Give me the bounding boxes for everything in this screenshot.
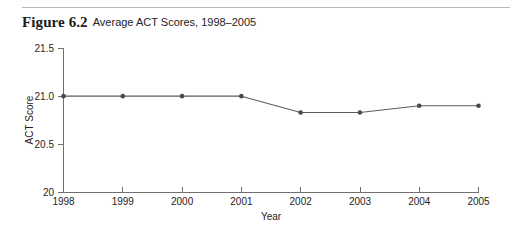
x-tick-label: 1998 [52, 196, 75, 207]
data-point [239, 94, 244, 99]
x-tick-label: 2005 [467, 196, 490, 207]
data-point [180, 94, 185, 99]
line-chart-svg: 21.5 21.0 20.5 20 1998 1999 2000 2001 20… [0, 0, 519, 232]
x-tick-label: 2002 [290, 196, 313, 207]
y-axis-ticks [58, 49, 64, 193]
figure-container: Figure 6.2Average ACT Scores, 1998–2005 [0, 0, 519, 232]
x-axis-tick-labels: 1998 1999 2000 2001 2002 2003 2004 2005 [52, 196, 490, 207]
y-tick-label: 20.5 [35, 139, 55, 150]
data-line [64, 96, 479, 112]
x-axis-title: Year [261, 211, 282, 222]
chart-plot-area: 21.5 21.0 20.5 20 1998 1999 2000 2001 20… [0, 0, 519, 232]
y-axis-title: ACT Score [24, 95, 35, 144]
x-axis-ticks [64, 187, 479, 193]
x-tick-label: 1999 [112, 196, 135, 207]
data-point [476, 104, 481, 109]
data-point [120, 94, 125, 99]
data-point [61, 94, 66, 99]
y-axis-tick-labels: 21.5 21.0 20.5 20 [35, 43, 55, 198]
data-point [298, 110, 303, 115]
y-tick-label: 21.0 [35, 91, 55, 102]
data-point [417, 104, 422, 109]
x-tick-label: 2003 [349, 196, 372, 207]
x-tick-label: 2004 [408, 196, 431, 207]
data-point [358, 110, 363, 115]
x-tick-label: 2000 [171, 196, 194, 207]
x-tick-label: 2001 [230, 196, 253, 207]
y-tick-label: 21.5 [35, 43, 55, 54]
